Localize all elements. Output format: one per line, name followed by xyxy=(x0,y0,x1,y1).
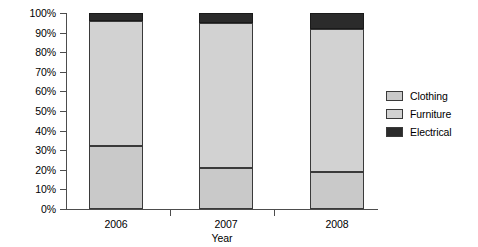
bar-segment-furniture-2008[interactable] xyxy=(310,29,364,172)
x-tick-label-2007: 2007 xyxy=(191,219,261,230)
legend-label: Electrical xyxy=(410,127,452,138)
bar-group-2007[interactable] xyxy=(199,13,253,209)
bar-group-2006[interactable] xyxy=(89,13,143,209)
bar-group-2008[interactable] xyxy=(310,13,364,209)
bar-segment-clothing-2007[interactable] xyxy=(199,168,253,209)
stacked-bar-chart: 100% 90% 80% 70% 60% 50% 40% 30% 20% 10%… xyxy=(0,0,478,247)
bar-segment-furniture-2007[interactable] xyxy=(199,23,253,168)
legend-item[interactable]: Furniture xyxy=(386,106,478,122)
x-tick-mark xyxy=(274,209,275,216)
x-tick-label-2008: 2008 xyxy=(302,219,372,230)
legend-item[interactable]: Clothing xyxy=(386,88,478,104)
bar-segment-clothing-2006[interactable] xyxy=(89,146,143,209)
x-axis-title: Year xyxy=(66,233,378,244)
chart-legend: Clothing Furniture Electrical xyxy=(386,88,478,142)
bar-segment-furniture-2006[interactable] xyxy=(89,21,143,146)
x-axis-line xyxy=(66,209,378,210)
legend-swatch-furniture xyxy=(386,109,403,119)
x-tick-mark xyxy=(170,209,171,216)
legend-label: Furniture xyxy=(410,109,451,120)
legend-swatch-clothing xyxy=(386,91,403,101)
bar-segment-electrical-2007[interactable] xyxy=(199,13,253,23)
x-tick-label-2006: 2006 xyxy=(81,219,151,230)
bar-segment-electrical-2006[interactable] xyxy=(89,13,143,21)
bar-segment-electrical-2008[interactable] xyxy=(310,13,364,29)
legend-swatch-electrical xyxy=(386,127,403,137)
legend-item[interactable]: Electrical xyxy=(386,124,478,140)
bar-segment-clothing-2008[interactable] xyxy=(310,172,364,209)
legend-label: Clothing xyxy=(410,91,448,102)
